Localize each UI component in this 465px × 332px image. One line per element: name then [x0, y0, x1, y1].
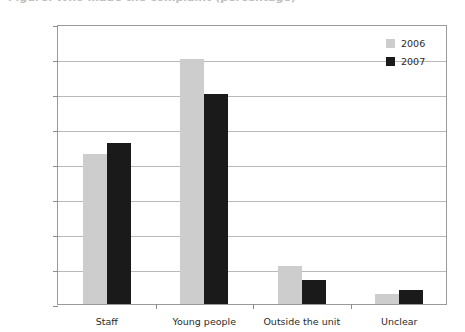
bar-2006-staff[interactable]	[83, 154, 107, 305]
legend-item[interactable]: 2006	[386, 34, 425, 52]
x-tick-mark	[156, 304, 157, 309]
y-tick-mark	[53, 96, 58, 97]
bar-2006-outside-the-unit[interactable]	[278, 266, 302, 305]
x-tick-mark	[351, 304, 352, 309]
x-tick-label: Young people	[172, 316, 236, 327]
gridline	[58, 131, 446, 132]
legend-swatch-2006	[386, 39, 395, 48]
x-tick-label: Staff	[96, 316, 118, 327]
y-tick-mark	[53, 271, 58, 272]
y-tick-mark	[53, 236, 58, 237]
legend-label-2006: 2006	[401, 38, 425, 49]
x-tick-label: Unclear	[381, 316, 417, 327]
legend-label-2007: 2007	[401, 56, 425, 67]
legend-swatch-2007	[386, 57, 395, 66]
x-tick-label: Outside the unit	[263, 316, 340, 327]
bar-2007-staff[interactable]	[107, 143, 131, 304]
legend-item[interactable]: 2007	[386, 52, 425, 70]
y-tick-mark	[53, 131, 58, 132]
bar-2006-young-people[interactable]	[180, 59, 204, 304]
bar-2007-young-people[interactable]	[204, 94, 228, 304]
bar-2007-unclear[interactable]	[399, 290, 423, 304]
chart-legend: 2006 2007	[386, 34, 425, 70]
gridline	[58, 96, 446, 97]
y-tick-mark	[53, 61, 58, 62]
bar-2006-unclear[interactable]	[375, 294, 399, 305]
y-tick-mark	[53, 201, 58, 202]
y-tick-mark	[53, 306, 58, 307]
x-tick-mark	[253, 304, 254, 309]
y-tick-mark	[53, 26, 58, 27]
bar-chart-figure: Percentage of respondents 01020304050607…	[0, 0, 465, 332]
bar-2007-outside-the-unit[interactable]	[302, 280, 326, 305]
y-tick-mark	[53, 166, 58, 167]
